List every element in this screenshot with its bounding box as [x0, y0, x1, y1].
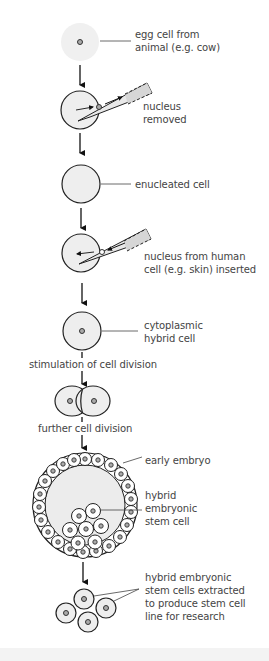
enucleated-cell-label: enucleated cell [135, 178, 210, 191]
icm-line1: hybrid [145, 489, 197, 502]
nucleus-inserted-line2: cell (e.g. skin) inserted [144, 263, 256, 276]
stimulation-label: stimulation of cell division [29, 358, 157, 371]
diagram-canvas [0, 0, 269, 661]
embryo-leader-line [123, 457, 142, 463]
inner-cell-mass-label: hybrid embryonic stem cell [145, 489, 197, 528]
two-cell-embryo [55, 386, 110, 416]
extracted-line2: stem cells extracted [145, 584, 246, 597]
hybrid-cell-line2: hybrid cell [144, 332, 203, 345]
egg-cell [61, 23, 131, 61]
extracted-cells-label: hybrid embryonic stem cells extracted to… [145, 571, 246, 623]
egg-cell-label: egg cell from animal (e.g. cow) [135, 28, 220, 54]
nucleus-removal-cell [61, 83, 152, 129]
icm-line3: stem cell [145, 515, 197, 528]
nucleus-insertion-cell [62, 229, 151, 272]
early-embryo [33, 453, 143, 559]
icm-line2: embryonic [145, 502, 197, 515]
further-division-label: further cell division [38, 422, 132, 435]
egg-cell-label-line1: egg cell from [135, 28, 220, 41]
nucleus-removed-label: nucleus removed [143, 100, 187, 126]
extracted-line3: to produce stem cell [145, 597, 246, 610]
hybrid-cell [63, 312, 138, 350]
extracted-line4: line for research [145, 610, 246, 623]
nucleus-inserted-label: nucleus from human cell (e.g. skin) inse… [144, 250, 256, 276]
bottom-band [0, 648, 269, 661]
hybrid-cell-label: cytoplasmic hybrid cell [144, 319, 203, 345]
extracted-stem-cells [56, 589, 139, 632]
extracted-line1: hybrid embryonic [145, 571, 246, 584]
egg-cell-label-line2: animal (e.g. cow) [135, 41, 220, 54]
hybrid-cell-line1: cytoplasmic [144, 319, 203, 332]
early-embryo-label: early embryo [145, 454, 210, 467]
nucleus-inserted-line1: nucleus from human [144, 250, 256, 263]
enucleated-cell [62, 165, 131, 203]
nucleus-removed-line1: nucleus [143, 100, 187, 113]
nucleus-removed-line2: removed [143, 113, 187, 126]
